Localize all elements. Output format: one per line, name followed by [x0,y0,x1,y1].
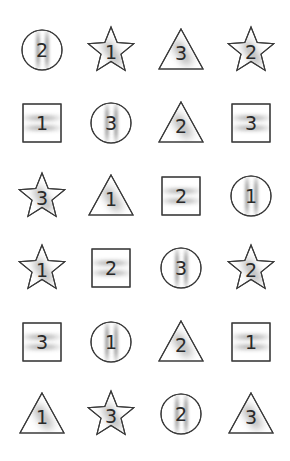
shape-number-label: 2 [153,314,209,370]
shape-number-label: 1 [83,22,139,78]
triangle-3-cell: 3 [223,386,279,442]
shape-number-label: 2 [14,22,70,78]
shape-number-label: 3 [14,314,70,370]
shape-number-label: 3 [153,22,209,78]
square-1-cell: 1 [223,314,279,370]
star-3-cell: 3 [83,386,139,442]
shape-number-label: 1 [14,386,70,442]
circle-1-cell: 1 [83,314,139,370]
star-3-cell: 3 [14,168,70,224]
shape-number-label: 3 [153,240,209,296]
triangle-1-cell: 1 [83,168,139,224]
circle-2-cell: 2 [153,386,209,442]
shape-number-label: 3 [223,386,279,442]
square-2-cell: 2 [83,240,139,296]
circle-2-cell: 2 [14,22,70,78]
circle-1-cell: 1 [223,168,279,224]
shape-number-label: 1 [83,168,139,224]
shape-number-label: 1 [14,95,70,151]
shape-number-label: 3 [83,95,139,151]
star-2-cell: 2 [223,240,279,296]
star-1-cell: 1 [14,240,70,296]
triangle-2-cell: 2 [153,314,209,370]
shape-number-label: 2 [83,240,139,296]
circle-3-cell: 3 [83,95,139,151]
shape-number-label: 2 [153,168,209,224]
square-1-cell: 1 [14,95,70,151]
shape-number-label: 2 [223,22,279,78]
shape-number-label: 3 [223,95,279,151]
shape-number-label: 1 [223,168,279,224]
shape-number-label: 3 [14,168,70,224]
shape-number-label: 2 [223,240,279,296]
shape-number-label: 1 [14,240,70,296]
shape-grid: 2 1 3 2 [0,0,290,461]
star-2-cell: 2 [223,22,279,78]
shape-number-label: 3 [83,386,139,442]
square-3-cell: 3 [223,95,279,151]
circle-3-cell: 3 [153,240,209,296]
shape-number-label: 2 [153,95,209,151]
shape-number-label: 2 [153,386,209,442]
shape-number-label: 1 [83,314,139,370]
square-2-cell: 2 [153,168,209,224]
square-3-cell: 3 [14,314,70,370]
triangle-3-cell: 3 [153,22,209,78]
shape-number-label: 1 [223,314,279,370]
triangle-2-cell: 2 [153,95,209,151]
star-1-cell: 1 [83,22,139,78]
triangle-1-cell: 1 [14,386,70,442]
